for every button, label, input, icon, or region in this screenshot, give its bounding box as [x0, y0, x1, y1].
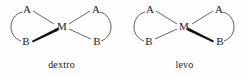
wedge-bond-metal-bottom-right-b — [188, 27, 215, 42]
bond-top-left-a-metal — [33, 11, 54, 24]
atom-metal-center: M — [57, 21, 67, 32]
atom-bottom-left-b: B — [145, 36, 152, 47]
bond-top-right-a-metal — [192, 11, 213, 24]
wedge-bond-bottom-left-b-metal — [32, 27, 59, 42]
chelate-arc-right — [223, 12, 234, 41]
bond-bottom-left-b-metal — [155, 29, 177, 39]
bond-top-right-a-metal — [69, 11, 90, 24]
atom-bottom-right-b: B — [216, 36, 223, 47]
atom-top-right-a: A — [92, 4, 100, 15]
isomer-figure: A A B B M dextro A A B B M levo — [0, 0, 246, 75]
bond-top-left-a-metal — [156, 11, 177, 24]
atom-top-left-a: A — [146, 4, 154, 15]
caption-levo: levo — [123, 59, 246, 70]
atom-top-left-a: A — [23, 4, 31, 15]
structure-levo: A A B B M — [123, 0, 246, 58]
atom-bottom-right-b: B — [93, 36, 100, 47]
caption-dextro: dextro — [0, 59, 123, 70]
chelate-arc-right — [100, 12, 111, 41]
atom-top-right-a: A — [215, 4, 223, 15]
atom-metal-center: M — [179, 21, 189, 32]
chelate-arc-left — [11, 12, 22, 41]
structure-dextro: A A B B M — [0, 0, 123, 58]
chelate-arc-left — [134, 12, 145, 41]
bond-bottom-right-b-metal — [69, 29, 91, 39]
atom-bottom-left-b: B — [22, 36, 29, 47]
